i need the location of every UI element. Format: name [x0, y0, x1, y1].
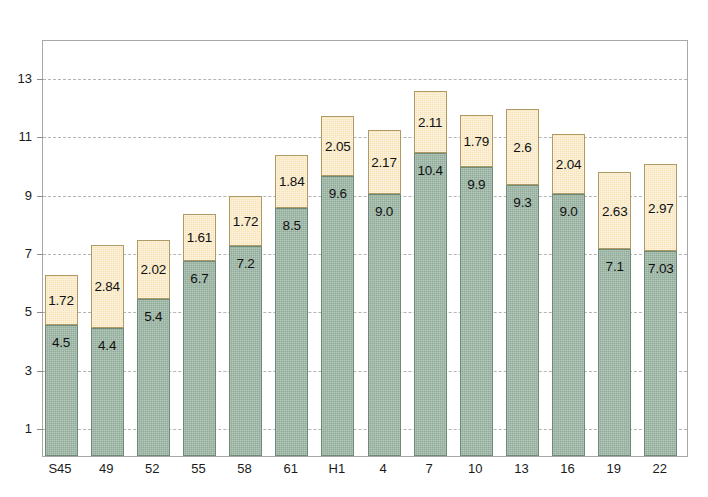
bar-value-label: 2.84	[94, 280, 119, 294]
bar-segment-lower[interactable]: 9.3	[506, 185, 539, 456]
bar-group[interactable]: 7.12.63	[598, 172, 631, 456]
bar-value-label: 2.04	[556, 158, 581, 172]
bar-value-label: 8.5	[283, 219, 301, 233]
y-tick-label: 13	[18, 71, 32, 84]
x-axis: S454952555861H1471013161922	[42, 462, 688, 486]
y-tick-label: 11	[19, 130, 33, 143]
bar-value-label: 9.3	[513, 196, 531, 210]
y-tick-mark	[37, 196, 43, 197]
bar-value-label: 2.17	[371, 156, 396, 170]
bar-segment-upper[interactable]: 2.63	[598, 172, 631, 249]
y-tick-label: 5	[25, 305, 32, 318]
bar-value-label: 6.7	[190, 272, 208, 286]
bar-value-label: 9.9	[467, 178, 485, 192]
bar-segment-lower[interactable]: 7.1	[598, 249, 631, 456]
bar-group[interactable]: 10.42.11	[414, 91, 447, 456]
bar-value-label: 9.0	[559, 205, 577, 219]
bar-value-label: 2.63	[602, 205, 627, 219]
bar-value-label: 10.4	[417, 164, 442, 178]
bar-segment-upper[interactable]: 2.17	[368, 130, 401, 193]
bar-segment-lower[interactable]: 9.0	[368, 194, 401, 456]
bar-segment-lower[interactable]: 9.9	[460, 167, 493, 456]
bar-segment-upper[interactable]: 1.61	[183, 214, 216, 261]
y-tick-mark	[37, 254, 43, 255]
bar-value-label: 1.84	[279, 175, 304, 189]
bar-group[interactable]: 4.51.72	[45, 275, 78, 456]
bar-segment-upper[interactable]: 2.04	[552, 134, 585, 193]
bar-group[interactable]: 4.42.84	[91, 245, 124, 456]
bar-group[interactable]: 8.51.84	[275, 154, 308, 456]
bar-segment-lower[interactable]: 10.4	[414, 153, 447, 456]
bar-segment-lower[interactable]: 6.7	[183, 261, 216, 456]
y-tick-label: 7	[25, 246, 32, 259]
bar-value-label: 9.6	[329, 187, 347, 201]
bar-segment-upper[interactable]: 1.72	[45, 275, 78, 325]
y-tick-mark	[37, 429, 43, 430]
bar-value-label: 7.1	[606, 260, 624, 274]
bar-value-label: 2.02	[141, 263, 166, 277]
bar-segment-lower[interactable]: 9.0	[552, 194, 585, 456]
bar-group[interactable]: 7.032.97	[644, 164, 677, 456]
bar-value-label: 2.97	[648, 202, 673, 216]
bar-segment-upper[interactable]: 1.84	[275, 155, 308, 209]
bar-value-label: 7.2	[236, 257, 254, 271]
bar-segment-upper[interactable]: 1.79	[460, 115, 493, 167]
y-tick-mark	[37, 371, 43, 372]
bar-value-label: 2.05	[325, 140, 350, 154]
bar-value-label: 9.0	[375, 205, 393, 219]
y-tick-mark	[37, 312, 43, 313]
bar-segment-upper[interactable]: 2.11	[414, 91, 447, 153]
bar-segment-upper[interactable]: 2.6	[506, 109, 539, 185]
y-tick-mark	[37, 137, 43, 138]
bar-value-label: 1.72	[233, 215, 258, 229]
plot-area: 4.51.724.42.845.42.026.71.617.21.728.51.…	[42, 40, 688, 457]
bar-group[interactable]: 9.02.04	[552, 134, 585, 456]
gridline	[43, 79, 687, 80]
bar-group[interactable]: 7.21.72	[229, 196, 262, 456]
bar-segment-lower[interactable]: 4.4	[91, 328, 124, 456]
bar-value-label: 2.11	[418, 116, 442, 130]
bar-value-label: 4.5	[52, 336, 70, 350]
y-axis: 135791113	[0, 0, 32, 497]
gridline	[43, 137, 687, 138]
bar-segment-upper[interactable]: 2.05	[321, 116, 354, 176]
bar-segment-upper[interactable]: 2.02	[137, 240, 170, 299]
y-tick-mark	[37, 79, 43, 80]
bar-segment-upper[interactable]: 2.84	[91, 245, 124, 328]
bar-value-label: 1.72	[48, 294, 73, 308]
bar-group[interactable]: 9.91.79	[460, 115, 493, 456]
bar-value-label: 4.4	[98, 339, 116, 353]
bar-value-label: 1.61	[187, 231, 212, 245]
y-tick-label: 9	[25, 188, 32, 201]
bar-segment-lower[interactable]: 4.5	[45, 325, 78, 456]
bar-segment-lower[interactable]: 7.2	[229, 246, 262, 456]
bar-group[interactable]: 9.02.17	[368, 130, 401, 456]
x-tick-label: 22	[631, 462, 688, 475]
bar-value-label: 5.4	[144, 310, 162, 324]
bar-value-label: 7.03	[648, 262, 673, 276]
bar-value-label: 1.79	[464, 135, 489, 149]
bar-group[interactable]: 9.62.05	[321, 116, 354, 456]
y-tick-label: 1	[25, 421, 32, 434]
bar-group[interactable]: 5.42.02	[137, 240, 170, 456]
stacked-bar-chart: 135791113 4.51.724.42.845.42.026.71.617.…	[0, 0, 708, 497]
bar-segment-lower[interactable]: 7.03	[644, 251, 677, 456]
bar-segment-lower[interactable]: 5.4	[137, 299, 170, 456]
bar-value-label: 2.6	[513, 141, 531, 155]
bar-group[interactable]: 9.32.6	[506, 109, 539, 456]
bar-segment-upper[interactable]: 1.72	[229, 196, 262, 246]
bar-segment-lower[interactable]: 8.5	[275, 208, 308, 456]
bar-segment-upper[interactable]: 2.97	[644, 164, 677, 251]
gridline	[43, 196, 687, 197]
bar-segment-lower[interactable]: 9.6	[321, 176, 354, 456]
bar-group[interactable]: 6.71.61	[183, 214, 216, 456]
y-tick-label: 3	[25, 363, 32, 376]
